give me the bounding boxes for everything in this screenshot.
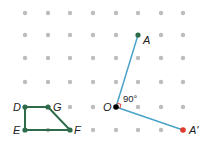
grid-dot xyxy=(159,11,163,15)
grid-dot xyxy=(181,56,185,60)
grid-dot xyxy=(114,33,118,37)
grid-dot xyxy=(159,56,163,60)
point-F xyxy=(67,127,72,132)
grid-dot xyxy=(181,33,185,37)
grid-dot xyxy=(114,128,118,132)
quadrilateral-DGFE xyxy=(25,107,70,130)
grid-dot xyxy=(91,56,95,60)
point-A-prime xyxy=(180,127,186,133)
label-D: D xyxy=(13,101,21,113)
grid-dot xyxy=(136,56,140,60)
label-G: G xyxy=(53,101,62,113)
grid-dot xyxy=(23,11,27,15)
label-O: O xyxy=(103,101,112,113)
rotation-rays xyxy=(116,35,183,130)
grid-dot xyxy=(136,11,140,15)
grid-dot xyxy=(68,80,72,84)
grid-dot xyxy=(91,128,95,132)
grid-dot xyxy=(46,11,50,15)
grid-dot xyxy=(114,80,118,84)
grid-dot xyxy=(136,128,140,132)
angle-label: 90° xyxy=(123,93,138,104)
grid-dot xyxy=(23,80,27,84)
point-E xyxy=(22,127,27,132)
grid-dot xyxy=(46,33,50,37)
grid-dot xyxy=(114,11,118,15)
grid-dot xyxy=(181,80,185,84)
point-G xyxy=(45,104,50,109)
grid-dot xyxy=(46,80,50,84)
grid-dot xyxy=(91,11,95,15)
grid-dot xyxy=(46,56,50,60)
grid-dot xyxy=(68,56,72,60)
grid-dot xyxy=(68,33,72,37)
grid-dot xyxy=(23,56,27,60)
grid-dot xyxy=(181,11,185,15)
grid-dot xyxy=(136,105,140,109)
label-E: E xyxy=(13,124,21,136)
grid-dot xyxy=(91,105,95,109)
grid-dot xyxy=(159,80,163,84)
grid-dot xyxy=(159,33,163,37)
grid-dot xyxy=(181,105,185,109)
grid-dot xyxy=(91,33,95,37)
point-O xyxy=(113,104,119,110)
point-D xyxy=(22,104,27,109)
point-A xyxy=(135,32,140,37)
grid-dot xyxy=(23,33,27,37)
label-A-prime: A' xyxy=(188,124,199,136)
rotation-diagram: D G E F A O A' 90° xyxy=(0,0,207,143)
grid-dot xyxy=(68,11,72,15)
grid-dot xyxy=(136,80,140,84)
grid-dot xyxy=(159,128,163,132)
grid-dot xyxy=(91,80,95,84)
dot-grid xyxy=(23,11,185,132)
grid-dot xyxy=(68,105,72,109)
grid-dot xyxy=(159,105,163,109)
label-F: F xyxy=(74,124,82,136)
grid-dot xyxy=(114,56,118,60)
label-A: A xyxy=(142,34,150,46)
